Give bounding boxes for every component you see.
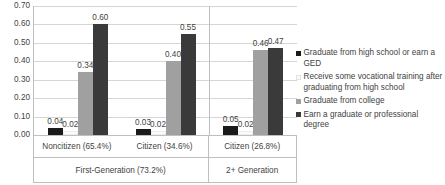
bar-value-label: 0.47 [263, 38, 288, 47]
category-axis: Noncitizen (65.4%)Citizen (34.6%)Citizen… [33, 135, 296, 183]
y-axis-tick-label: 0.00 [4, 131, 30, 139]
bar [166, 61, 181, 135]
legend-item[interactable]: Graduate from college [296, 96, 444, 107]
bar [268, 48, 283, 135]
y-axis-tick-label: 0.50 [4, 39, 30, 47]
y-axis-tick-label: 0.60 [4, 20, 30, 28]
chart-legend: Graduate from high school or earn a GEDR… [296, 48, 444, 134]
legend-label: Receive some vocational training after g… [304, 72, 445, 93]
category-label: Citizen (34.6%) [121, 135, 209, 158]
legend-swatch-icon [296, 99, 301, 104]
bar-value-label: 0.55 [176, 24, 201, 33]
axis-group-divider [208, 135, 209, 158]
axis-box-edge [33, 158, 34, 183]
axis-group-divider [208, 158, 209, 183]
legend-item[interactable]: Earn a graduate or professional degree [296, 110, 444, 131]
bar [181, 34, 196, 135]
bar [78, 72, 93, 135]
group-label: 2+ Generation [208, 158, 296, 183]
legend-item[interactable]: Receive some vocational training after g… [296, 72, 444, 93]
y-axis-tick-label: 0.20 [4, 94, 30, 102]
category-label: Noncitizen (65.4%) [33, 135, 121, 158]
legend-label: Graduate from college [304, 96, 385, 107]
category-label: Citizen (26.8%) [208, 135, 296, 158]
legend-label: Earn a graduate or professional degree [304, 110, 445, 131]
y-axis-tick-label: 0.70 [4, 2, 30, 10]
axis-box-edge [296, 135, 297, 158]
bar [253, 50, 268, 135]
axis-box-edge [33, 135, 34, 158]
axis-box-rule [33, 182, 296, 183]
legend-swatch-icon [296, 112, 301, 117]
group-label: First-Generation (73.2%) [33, 158, 208, 183]
bar-value-label: 0.60 [88, 14, 113, 23]
y-axis-tick-label: 0.10 [4, 112, 30, 120]
group-separator [209, 6, 210, 135]
gridline [34, 6, 297, 7]
category-row-primary: Noncitizen (65.4%)Citizen (34.6%)Citizen… [33, 135, 296, 158]
legend-swatch-icon [296, 51, 301, 56]
plot-area: 0.040.020.340.600.030.020.400.550.050.02… [33, 6, 297, 135]
y-axis-tick-label: 0.30 [4, 76, 30, 84]
y-axis-tick-label: 0.40 [4, 57, 30, 65]
category-row-group: First-Generation (73.2%)2+ Generation [33, 158, 296, 183]
bar-chart: r 0.700.600.500.400.300.200.100.00 0.040… [0, 0, 445, 185]
legend-label: Graduate from high school or earn a GED [304, 48, 445, 69]
legend-swatch-icon [296, 75, 301, 80]
gridline [34, 24, 297, 25]
legend-item[interactable]: Graduate from high school or earn a GED [296, 48, 444, 69]
bar [93, 24, 108, 135]
axis-box-edge [296, 158, 297, 183]
y-axis: 0.700.600.500.400.300.200.100.00 [4, 6, 30, 135]
